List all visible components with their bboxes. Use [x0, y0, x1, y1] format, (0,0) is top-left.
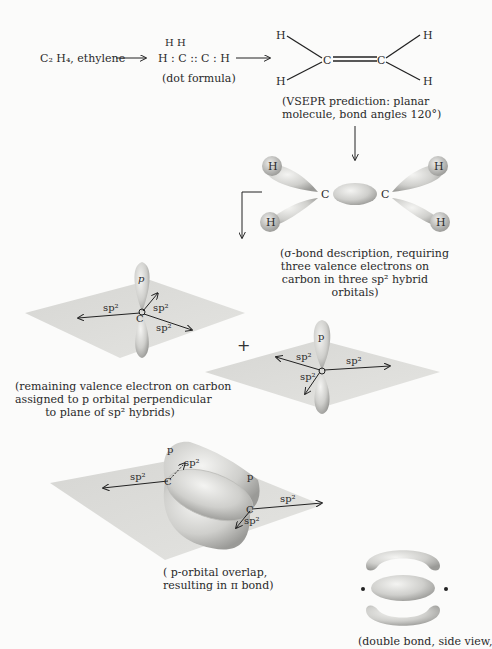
svg-text:sp²: sp² [130, 471, 146, 482]
svg-text:sp²: sp² [244, 515, 260, 526]
svg-text:C: C [323, 54, 331, 67]
arrow-to-hybrid [242, 192, 262, 238]
svg-text:C: C [164, 476, 172, 487]
pi-caption-line1: ( p-orbital overlap, [163, 566, 267, 579]
pi-caption-line2: resulting in π bond) [163, 579, 273, 592]
ethylene-formula-label: C₂ H₄, ethylene [40, 52, 125, 65]
svg-text:H: H [423, 75, 433, 88]
carbon-hybrid-right: p sp² sp² sp² [205, 320, 440, 414]
svg-text:H: H [436, 216, 446, 229]
vsepr-caption-line2: molecule, bond angles 120°) [282, 108, 422, 121]
svg-text:C: C [136, 313, 144, 324]
pi-bond-overlap: p sp² sp² p sp² sp² C C [50, 442, 322, 560]
svg-text:sp²: sp² [300, 371, 316, 382]
svg-text:sp²: sp² [184, 457, 200, 468]
svg-text:sp²: sp² [153, 302, 169, 313]
svg-text:p: p [138, 273, 145, 284]
dot-formula-top: H H [165, 36, 186, 49]
sigma-caption-line3: carbon in three sp² hybrid [280, 273, 430, 286]
hybrid-caption-line1: (remaining valence electron on carbon [15, 380, 205, 393]
svg-text:sp²: sp² [280, 493, 296, 504]
sigma-bond-orbitals: H H H H C C [260, 156, 450, 232]
svg-text:H: H [276, 75, 286, 88]
carbon-hybrid-left: p sp² sp² sp² C [25, 262, 245, 358]
svg-text:C: C [321, 188, 329, 201]
svg-text:H: H [266, 216, 276, 229]
svg-text:C: C [381, 188, 389, 201]
svg-text:p: p [167, 444, 173, 455]
side-view-caption: (double bond, side view, [358, 635, 492, 648]
hybrid-caption-line2: assigned to p orbital perpendicular [15, 393, 205, 406]
svg-text:H: H [423, 29, 433, 42]
svg-text:p: p [247, 471, 253, 482]
sigma-caption-line4: orbitals) [280, 286, 430, 299]
vsepr-caption-line1: (VSEPR prediction: planar [282, 95, 422, 108]
svg-text:sp²: sp² [346, 355, 362, 366]
double-bond-side-view [361, 550, 448, 626]
svg-text:C: C [377, 54, 385, 67]
dot-formula: H : C :: C : H [158, 52, 230, 65]
svg-text:C: C [246, 504, 254, 515]
plus-sign: + [237, 336, 250, 355]
hybrid-caption-line3: to plane of sp² hybrids) [15, 406, 205, 419]
svg-text:sp²: sp² [156, 322, 172, 333]
svg-text:H: H [276, 29, 286, 42]
sigma-caption-line2: three valence electrons on [280, 260, 430, 273]
svg-text:p: p [318, 331, 324, 342]
svg-text:sp²: sp² [103, 302, 119, 313]
dot-formula-caption: (dot formula) [162, 72, 236, 85]
svg-text:H: H [434, 160, 444, 173]
vsepr-structure: H H C C H H [276, 29, 433, 88]
svg-text:H: H [268, 160, 278, 173]
svg-text:sp²: sp² [296, 351, 312, 362]
sigma-caption-line1: (σ-bond description, requiring [280, 247, 430, 260]
